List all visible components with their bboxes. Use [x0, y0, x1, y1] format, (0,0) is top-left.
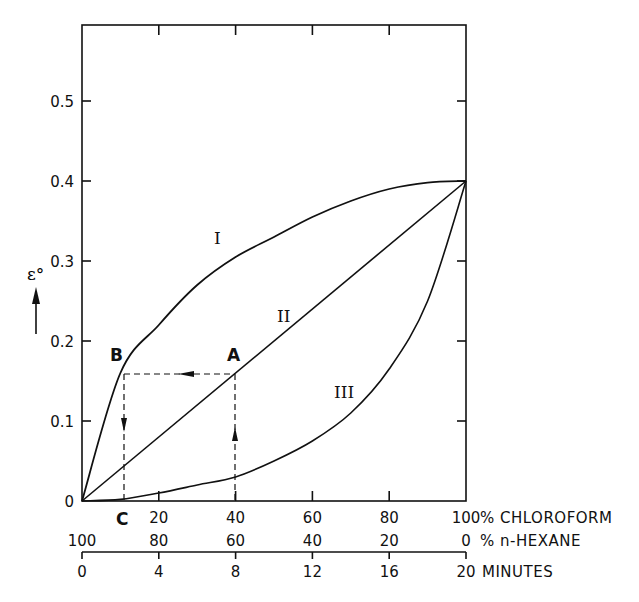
- minutes-tick-label: 0: [77, 563, 87, 581]
- plot-frame: [82, 25, 466, 501]
- hexane-tick-label: 20: [380, 532, 399, 550]
- y-tick-label: 0.4: [50, 173, 74, 191]
- chloroform-tick-label: 60: [303, 509, 322, 527]
- point-b-label: B: [110, 345, 123, 365]
- chloroform-tick-label: 80: [380, 509, 399, 527]
- point-c-label: C: [116, 509, 128, 529]
- y-tick-label: 0.2: [50, 333, 74, 351]
- curve-I-label: I: [214, 228, 221, 248]
- minutes-tick-label: 16: [380, 563, 399, 581]
- minutes-tick-label: 4: [154, 563, 164, 581]
- frame-ticks: [82, 25, 466, 501]
- y-tick-labels: 00.10.20.30.40.5: [50, 93, 74, 511]
- y-tick-label: 0.3: [50, 253, 74, 271]
- arrow-left-icon: [178, 371, 194, 377]
- y-axis-symbol: ε°: [27, 264, 44, 284]
- point-a-label: A: [227, 345, 241, 365]
- y-tick-label: 0.1: [50, 413, 74, 431]
- arrow-up-icon: [232, 427, 238, 441]
- curve-III-label: III: [334, 382, 354, 402]
- curve-II-label: II: [277, 306, 290, 326]
- minutes-axis-title: MINUTES: [482, 563, 553, 581]
- minutes-tick-label: 20: [456, 563, 475, 581]
- hexane-tick-label: 60: [226, 532, 245, 550]
- hexane-tick-label: 40: [303, 532, 322, 550]
- hexane-tick-label: 80: [149, 532, 168, 550]
- hexane-tick-label: 0: [461, 532, 471, 550]
- chart: 00.10.20.30.40.5 20406080100100806040200…: [0, 0, 639, 602]
- construction-lines: [124, 374, 235, 501]
- chloroform-tick-label: 40: [226, 509, 245, 527]
- y-axis-arrow-icon: [32, 287, 40, 304]
- chloroform-axis-title: % CHLOROFORM: [480, 509, 612, 527]
- chloroform-tick-label: 100: [452, 509, 481, 527]
- minutes-tick-label: 8: [231, 563, 241, 581]
- y-tick-label: 0: [64, 493, 74, 511]
- chloroform-tick-label: 20: [149, 509, 168, 527]
- arrow-down-icon: [121, 418, 127, 432]
- y-tick-label: 0.5: [50, 93, 74, 111]
- x-tick-labels: 20406080100100806040200048121620: [68, 509, 481, 581]
- hexane-axis-title: % n-HEXANE: [480, 532, 581, 550]
- minutes-tick-label: 12: [303, 563, 322, 581]
- hexane-tick-label: 100: [68, 532, 97, 550]
- minutes-ticks: [82, 552, 466, 559]
